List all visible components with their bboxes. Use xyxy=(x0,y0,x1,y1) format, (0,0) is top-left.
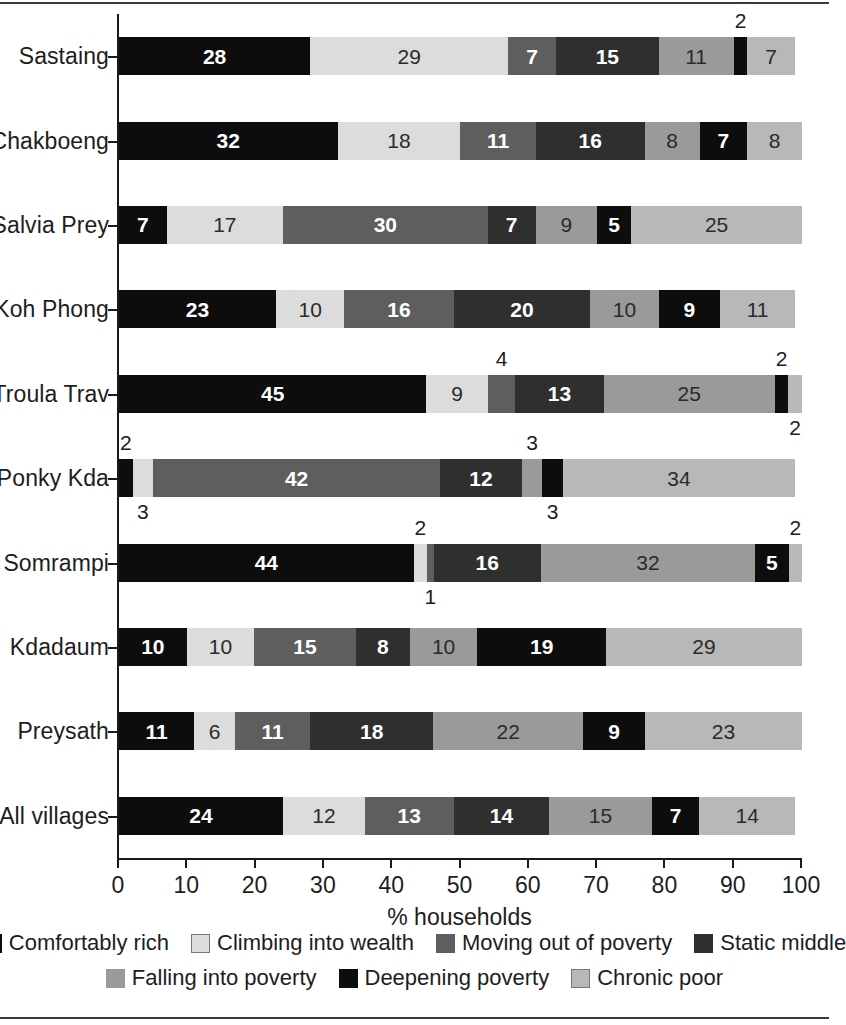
bar-segment: 18 xyxy=(310,712,433,750)
segment-value-label: 13 xyxy=(548,383,571,404)
x-axis-tick xyxy=(800,858,802,868)
bar-segment: 2 xyxy=(789,544,802,582)
x-axis-tick-label: 10 xyxy=(174,872,200,899)
x-axis-tick xyxy=(322,858,324,868)
y-axis-category-label: Koh Phong xyxy=(0,296,109,323)
x-axis-tick-label: 70 xyxy=(583,872,609,899)
bar-segment: 34 xyxy=(563,459,795,497)
segment-value-label: 34 xyxy=(667,468,690,489)
x-axis-tick xyxy=(527,858,529,868)
bar-segment: 1 xyxy=(427,544,434,582)
chart-row: Salvia Prey7173079525 xyxy=(117,183,802,267)
segment-value-label: 10 xyxy=(613,299,636,320)
bar-segment: 15 xyxy=(254,628,355,666)
legend-item[interactable]: Deepening poverty xyxy=(339,965,550,991)
chart-legend: Comfortably richClimbing into wealthMovi… xyxy=(0,930,829,1000)
segment-value-label: 11 xyxy=(487,130,509,151)
segment-value-label: 22 xyxy=(497,721,520,742)
segment-value-label: 7 xyxy=(670,805,682,826)
bar-segment: 9 xyxy=(536,206,597,244)
segment-callout-label: 2 xyxy=(776,347,788,371)
x-axis-tick-label: 80 xyxy=(652,872,678,899)
legend-swatch-icon xyxy=(436,934,455,953)
bar-segment: 9 xyxy=(583,712,644,750)
legend-item[interactable]: Comfortably rich xyxy=(0,930,169,956)
chart-row: Somrampi4421163252 xyxy=(117,520,802,604)
y-axis-tick xyxy=(108,56,117,58)
segment-value-label: 15 xyxy=(293,636,316,657)
segment-value-label: 18 xyxy=(387,130,410,151)
x-axis-title: % households xyxy=(117,904,802,931)
segment-value-label: 7 xyxy=(137,214,149,235)
segment-value-label: 25 xyxy=(705,214,728,235)
y-axis-category-label: All villages xyxy=(0,802,109,829)
bar-segment: 19 xyxy=(477,628,605,666)
bar-segment: 5 xyxy=(755,544,788,582)
segment-callout-label: 2 xyxy=(120,431,132,455)
x-axis-tick xyxy=(185,858,187,868)
chart-row: Troula Trav4594132522 xyxy=(117,352,802,436)
top-divider-rule xyxy=(0,2,829,4)
bar-segment: 15 xyxy=(549,797,651,835)
segment-value-label: 10 xyxy=(209,636,232,657)
segment-value-label: 8 xyxy=(666,130,678,151)
bar-segment: 7 xyxy=(652,797,700,835)
segment-value-label: 20 xyxy=(510,299,533,320)
x-axis-tick xyxy=(254,858,256,868)
bar-segment: 28 xyxy=(119,37,310,75)
bar-segment: 13 xyxy=(515,375,604,413)
x-axis-tick-label: 0 xyxy=(112,872,125,899)
bar-segment: 2 xyxy=(414,544,427,582)
legend-swatch-icon xyxy=(106,969,125,988)
segment-value-label: 32 xyxy=(217,130,240,151)
bar-segment: 24 xyxy=(119,797,283,835)
y-axis-category-label: Ponky Kda xyxy=(0,465,109,492)
legend-swatch-icon xyxy=(339,969,358,988)
segment-value-label: 14 xyxy=(490,805,513,826)
segment-value-label: 9 xyxy=(683,299,695,320)
stacked-bar: 2310162010911 xyxy=(119,290,802,328)
segment-value-label: 23 xyxy=(186,299,209,320)
bar-segment: 2 xyxy=(734,37,748,75)
legend-item-label: Climbing into wealth xyxy=(217,930,414,956)
bar-segment: 25 xyxy=(604,375,775,413)
bar-segment: 11 xyxy=(720,290,795,328)
chart-row: All villages2412131415714 xyxy=(117,774,802,858)
legend-swatch-icon xyxy=(571,969,590,988)
legend-item[interactable]: Moving out of poverty xyxy=(436,930,672,956)
segment-value-label: 10 xyxy=(299,299,322,320)
bar-segment: 8 xyxy=(747,122,802,160)
segment-value-label: 12 xyxy=(312,805,335,826)
bar-segment: 10 xyxy=(276,290,344,328)
bar-segment: 14 xyxy=(454,797,550,835)
bar-segment: 8 xyxy=(356,628,410,666)
segment-value-label: 10 xyxy=(432,636,455,657)
bar-segment: 9 xyxy=(659,290,720,328)
segment-value-label: 10 xyxy=(141,636,164,657)
legend-item[interactable]: Climbing into wealth xyxy=(191,930,414,956)
bar-segment: 29 xyxy=(310,37,508,75)
bar-segment: 20 xyxy=(454,290,591,328)
segment-callout-label: 2 xyxy=(414,516,426,540)
bar-segment: 7 xyxy=(747,37,795,75)
segment-value-label: 11 xyxy=(145,721,167,742)
legend-item[interactable]: Static middle xyxy=(694,930,846,956)
bar-segment: 16 xyxy=(434,544,541,582)
bar-segment: 17 xyxy=(167,206,283,244)
legend-item[interactable]: Falling into poverty xyxy=(106,965,317,991)
legend-item-label: Comfortably rich xyxy=(9,930,169,956)
segment-value-label: 11 xyxy=(685,46,707,67)
bar-segment: 23 xyxy=(119,290,276,328)
x-axis-tick-label: 60 xyxy=(515,872,541,899)
x-axis-tick-label: 40 xyxy=(378,872,404,899)
bar-segment: 18 xyxy=(338,122,461,160)
segment-value-label: 5 xyxy=(608,214,620,235)
segment-value-label: 6 xyxy=(209,721,221,742)
y-axis-category-label: Sastaing xyxy=(19,43,109,70)
bar-segment: 2 xyxy=(119,459,133,497)
x-axis-tick-label: 50 xyxy=(447,872,473,899)
chart-row: Sastaing28297151127 xyxy=(117,14,802,98)
legend-item[interactable]: Chronic poor xyxy=(571,965,723,991)
stacked-bar: 28297151127 xyxy=(119,37,802,75)
chart-row: Chakboeng32181116878 xyxy=(117,98,802,182)
